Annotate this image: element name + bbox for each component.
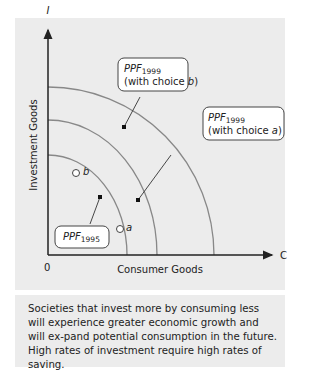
label-point-b: b xyxy=(83,166,89,177)
y-axis-label: Investment Goods xyxy=(28,99,39,190)
point-a xyxy=(117,226,124,233)
origin-label: 0 xyxy=(44,262,50,273)
label-ppf1999a-choice: (with choice a) xyxy=(208,125,282,136)
leader-line-1999a xyxy=(138,155,171,200)
x-axis-label: Consumer Goods xyxy=(117,264,203,275)
caption-text: Societies that invest more by consuming … xyxy=(28,302,278,372)
leader-line-1999b xyxy=(124,97,140,127)
ppf-1999b-marker xyxy=(122,125,126,129)
y-axis-symbol: I xyxy=(47,5,50,16)
point-b xyxy=(73,170,80,177)
leader-line-1995 xyxy=(90,197,100,224)
ppf-1995-marker xyxy=(98,195,102,199)
label-point-a: a xyxy=(126,222,132,233)
x-axis-symbol: C xyxy=(280,250,287,261)
label-ppf1999b-choice: (with choice b) xyxy=(124,76,198,87)
ppf-1999a-marker xyxy=(136,198,140,202)
